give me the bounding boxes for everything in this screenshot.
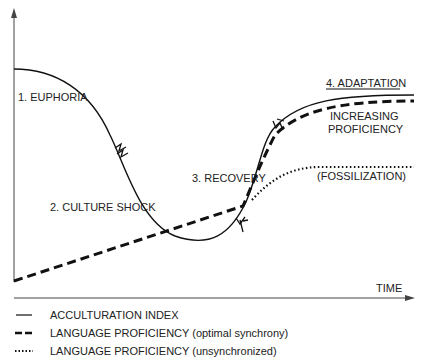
x-axis-label: TIME	[376, 282, 402, 294]
label-proficiency: PROFICIENCY	[328, 123, 404, 135]
legend-item-optimal: LANGUAGE PROFICIENCY (optimal synchrony)	[14, 324, 288, 342]
axes	[11, 8, 415, 301]
label-fossilization: (FOSSILIZATION)	[317, 170, 406, 182]
break-marker-2-icon	[236, 217, 248, 232]
x-axis-arrow-icon	[405, 295, 415, 301]
dashed-line-icon	[14, 329, 40, 337]
legend: ACCULTURATION INDEX LANGUAGE PROFICIENCY…	[14, 306, 288, 360]
legend-label: LANGUAGE PROFICIENCY (optimal synchrony)	[50, 324, 288, 342]
label-increasing: INCREASING	[330, 110, 398, 122]
legend-item-unsynchronized: LANGUAGE PROFICIENCY (unsynchronized)	[14, 342, 288, 360]
label-adaptation: 4. ADAPTATION	[326, 77, 406, 89]
label-euphoria: 1. EUPHORIA	[18, 91, 88, 103]
solid-line-icon	[14, 311, 40, 319]
label-culture-shock: 2. CULTURE SHOCK	[50, 201, 156, 213]
legend-label: ACCULTURATION INDEX	[50, 306, 179, 324]
legend-label: LANGUAGE PROFICIENCY (unsynchronized)	[50, 342, 277, 360]
label-recovery: 3. RECOVERY	[192, 172, 266, 184]
legend-item-acculturation: ACCULTURATION INDEX	[14, 306, 288, 324]
dotted-line-icon	[14, 347, 40, 355]
y-axis-arrow-icon	[11, 8, 17, 18]
